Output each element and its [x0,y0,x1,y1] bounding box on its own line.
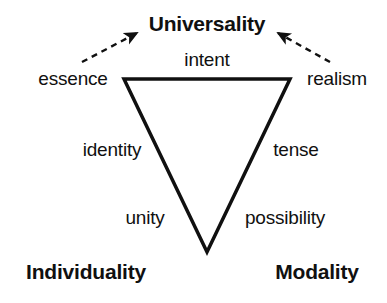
semiotic-triangle-diagram: Universality Individuality Modality inte… [0,0,387,303]
vertex-label-individuality: Individuality [26,261,146,282]
edge-label-essence: essence [38,69,107,88]
edge-label-unity: unity [125,208,164,227]
diagram-canvas [0,0,387,303]
edge-label-realism: realism [307,69,367,88]
vertex-label-universality: Universality [149,13,266,34]
dashed-arrow-realism-to-universality-icon [278,33,330,62]
edge-label-intent: intent [184,50,229,69]
dashed-arrow-essence-to-universality-icon [82,33,137,62]
edge-label-possibility: possibility [245,208,325,227]
edge-label-identity: identity [83,140,142,159]
edge-label-tense: tense [273,140,318,159]
vertex-label-modality: Modality [275,261,359,282]
